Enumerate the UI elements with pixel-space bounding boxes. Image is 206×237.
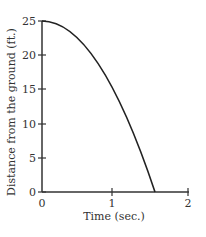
x-tick-labels: 0 1 2	[39, 197, 192, 210]
chart: 25 20 15 10 5 0 0 1 2 Time (sec.) Distan…	[0, 0, 206, 237]
y-tick-label: 20	[22, 49, 36, 62]
y-axis-label: Distance from the ground (ft.)	[5, 28, 18, 196]
x-tick-label: 0	[39, 197, 46, 210]
x-axis-label: Time (sec.)	[83, 210, 145, 223]
y-tick-label: 15	[22, 83, 36, 96]
y-tick-label: 5	[29, 152, 36, 165]
y-tick-label: 10	[22, 118, 36, 131]
height-curve	[42, 21, 155, 192]
y-tick-labels: 25 20 15 10 5 0	[22, 15, 36, 199]
x-tick-label: 1	[109, 197, 116, 210]
y-tick-label: 25	[22, 15, 36, 28]
y-tick-label: 0	[29, 186, 36, 199]
x-tick-label: 2	[185, 197, 192, 210]
